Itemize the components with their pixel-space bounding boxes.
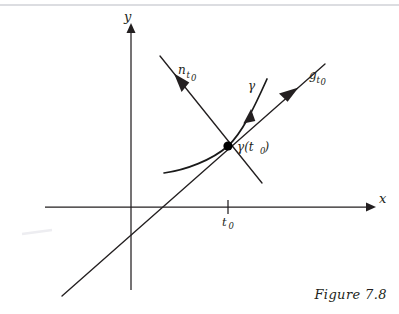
tangent-line-g-arrow-icon	[279, 87, 299, 101]
gamma-curve-arrow-icon	[243, 109, 255, 124]
coordinate-axes	[45, 23, 376, 290]
x-axis-label: x	[379, 191, 387, 206]
y-axis-arrow-icon	[127, 23, 136, 33]
tangent-line-g	[62, 64, 325, 296]
point-gamma-t0-label-close: )	[264, 140, 270, 154]
point-gamma-t0-marker	[223, 141, 232, 150]
x-axis-arrow-icon	[366, 202, 376, 211]
figure-page: y x t 0 n t 0 γ g t 0 γ(t 0 ) Figure 7.8	[0, 0, 399, 314]
gamma-curve-label: γ	[248, 79, 256, 93]
point-gamma-t0-label: γ(t 0 )	[237, 140, 270, 156]
normal-line-n-label-sub-t: t	[187, 70, 191, 80]
figure-caption: Figure 7.8	[314, 287, 387, 302]
normal-line-n-label-main: n	[178, 63, 186, 77]
x-tick-label-t: t	[222, 215, 227, 229]
point-gamma-t0-label-main: γ(t	[237, 140, 254, 154]
normal-line-n-label-sub-zero: 0	[191, 73, 197, 83]
x-tick-label-subscript: 0	[229, 221, 235, 231]
figure-diagram: y x t 0 n t 0 γ g t 0 γ(t 0 )	[0, 0, 399, 314]
scan-artifact-left-smudge	[22, 230, 52, 234]
x-tick-label-t0: t 0	[222, 215, 235, 231]
y-axis-label: y	[123, 9, 132, 24]
tangent-line-g-label-sub-zero: 0	[321, 77, 327, 87]
